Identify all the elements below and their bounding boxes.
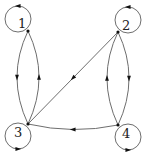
edge-4-to-2-arrowhead — [105, 75, 109, 81]
directed-graph: 1 2 3 4 — [0, 0, 149, 155]
edge-4-to-2[interactable] — [107, 32, 118, 125]
node-3-label: 3 — [14, 125, 22, 140]
edge-1-to-3[interactable] — [17, 31, 28, 124]
edge-2-to-4-arrowhead — [127, 76, 131, 82]
node-2-label: 2 — [122, 18, 130, 33]
node-1-point[interactable] — [26, 29, 29, 32]
edge-3-to-1[interactable] — [28, 31, 39, 124]
node-4-label: 4 — [122, 126, 130, 141]
node-3-point[interactable] — [26, 122, 29, 125]
self-loop-1-arrowhead — [15, 4, 21, 8]
edge-3-to-1-arrowhead — [37, 74, 41, 80]
node-1-label: 1 — [18, 16, 26, 31]
node-2-point[interactable] — [116, 30, 119, 33]
self-loop-2-arrowhead — [125, 5, 131, 9]
self-loop-4-arrowhead — [125, 148, 131, 152]
node-4-point[interactable] — [116, 123, 119, 126]
edge-2-to-4[interactable] — [118, 32, 129, 125]
edge-1-to-3-arrowhead — [15, 75, 19, 81]
self-loop-3-arrowhead — [15, 147, 21, 151]
edge-4-to-3-arrowhead — [70, 128, 76, 132]
